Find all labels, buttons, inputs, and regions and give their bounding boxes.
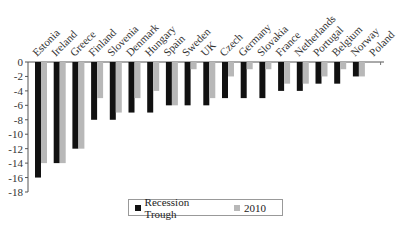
bar-2010 [116, 62, 122, 113]
bars [35, 62, 365, 178]
legend-item-2010: 2010 [234, 202, 266, 214]
y-tick-label: -12 [8, 143, 23, 155]
x-axis-labels: EstoniaIrelandGreeceFinlandSloveniaDenma… [30, 12, 397, 58]
y-tick-label: -18 [8, 186, 23, 198]
bar-2010 [247, 62, 253, 69]
bar-2010 [153, 62, 159, 91]
legend: Recession Trough 2010 [128, 199, 283, 216]
bar-recession-trough [297, 62, 303, 91]
bar-recession-trough [334, 62, 340, 84]
bar-2010 [78, 62, 84, 149]
bar-2010 [191, 62, 197, 69]
bar-recession-trough [278, 62, 284, 91]
legend-label: 2010 [244, 202, 266, 214]
bar-2010 [265, 62, 271, 69]
y-tick-label: -10 [8, 128, 23, 140]
bar-recession-trough [54, 62, 60, 163]
bar-2010 [97, 62, 103, 98]
bar-2010 [284, 62, 290, 84]
bar-2010 [209, 62, 215, 98]
bar-2010 [228, 62, 234, 76]
bar-2010 [340, 62, 346, 69]
bar-recession-trough [353, 62, 359, 76]
bar-2010 [135, 62, 141, 98]
bar-chart: 0-2-4-6-8-10-12-14-16-18 EstoniaIrelandG… [0, 0, 409, 225]
bar-2010 [322, 62, 328, 76]
bar-recession-trough [91, 62, 97, 120]
legend-swatch-gray [234, 205, 240, 211]
bar-recession-trough [185, 62, 191, 105]
bar-2010 [303, 62, 309, 84]
bar-recession-trough [35, 62, 41, 178]
bar-2010 [60, 62, 66, 163]
bar-recession-trough [110, 62, 116, 120]
y-tick-label: -16 [8, 172, 23, 184]
bar-recession-trough [129, 62, 135, 113]
bar-recession-trough [166, 62, 172, 105]
bar-recession-trough [72, 62, 78, 149]
legend-item-recession-trough: Recession Trough [135, 196, 218, 220]
legend-swatch-black [135, 205, 141, 211]
bar-recession-trough [147, 62, 153, 113]
y-tick-label: -8 [14, 114, 24, 126]
bar-recession-trough [222, 62, 228, 98]
y-tick-label: 0 [18, 56, 24, 68]
bar-recession-trough [316, 62, 322, 84]
bar-recession-trough [259, 62, 265, 98]
y-tick-label: -4 [14, 85, 24, 97]
bar-2010 [359, 62, 365, 76]
y-tick-label: -6 [14, 99, 24, 111]
y-tick-label: -14 [8, 157, 23, 169]
bar-2010 [41, 62, 47, 163]
bar-recession-trough [241, 62, 247, 98]
bar-recession-trough [203, 62, 209, 105]
y-tick-label: -2 [14, 70, 23, 82]
bar-2010 [172, 62, 178, 105]
legend-label: Recession Trough [145, 196, 218, 220]
